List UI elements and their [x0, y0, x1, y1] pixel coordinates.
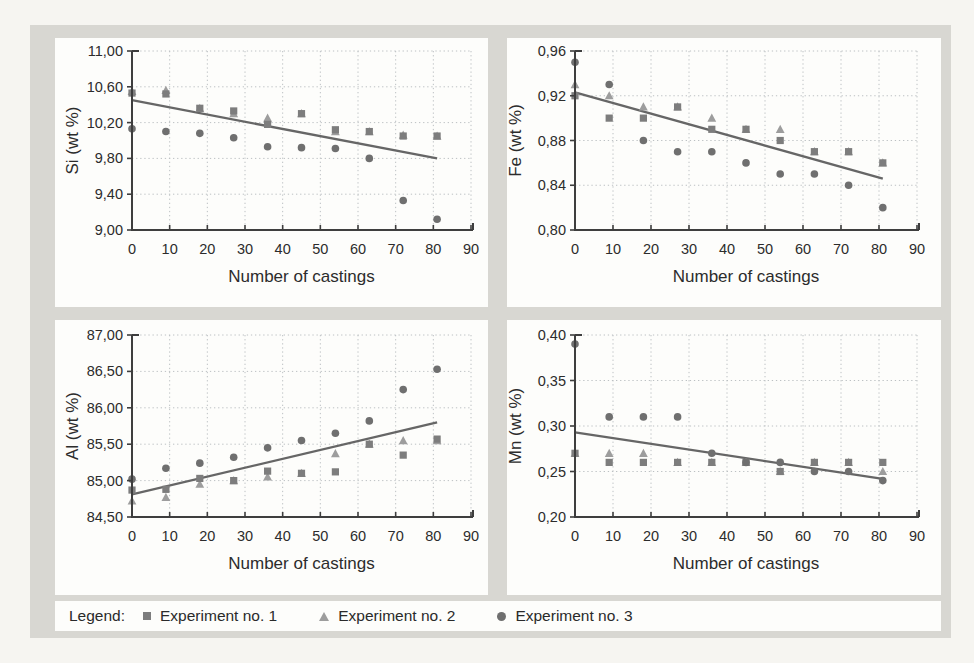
- x-axis-title: Number of castings: [673, 554, 819, 573]
- svg-text:10: 10: [605, 241, 621, 257]
- legend-item-experiment-2: Experiment no. 2: [319, 607, 455, 625]
- series-circles: [128, 125, 441, 223]
- chart-panel-si: 9,009,409,8010,2010,6011,000102030405060…: [55, 38, 488, 307]
- fe-chart: 0,800,840,880,920,960102030405060708090N…: [507, 38, 941, 307]
- svg-text:0,84: 0,84: [538, 177, 566, 193]
- svg-text:80: 80: [871, 241, 887, 257]
- trend-line: [132, 422, 437, 494]
- legend-item-label: Experiment no. 3: [515, 607, 632, 625]
- svg-text:60: 60: [350, 528, 366, 544]
- axes: [127, 51, 473, 230]
- series-triangles: [128, 436, 442, 505]
- svg-text:80: 80: [425, 241, 441, 257]
- svg-text:0,35: 0,35: [538, 373, 566, 389]
- svg-text:9,80: 9,80: [95, 150, 123, 166]
- scanned-figure-page: { "legend": { "title": "Legend:", "items…: [0, 0, 974, 663]
- y-axis-title: Mn (wt %): [507, 388, 525, 465]
- y-axis-title: Si (wt %): [63, 107, 82, 175]
- svg-text:0,92: 0,92: [538, 88, 566, 104]
- svg-text:11,00: 11,00: [88, 43, 123, 59]
- svg-text:80: 80: [871, 528, 887, 544]
- svg-text:40: 40: [275, 528, 291, 544]
- square-marker-icon: [143, 612, 151, 620]
- svg-text:0: 0: [571, 528, 579, 544]
- svg-text:10,60: 10,60: [87, 79, 123, 95]
- mn-chart: 0,200,250,300,350,400102030405060708090N…: [507, 320, 941, 595]
- svg-text:60: 60: [795, 241, 811, 257]
- legend-title: Legend:: [69, 607, 125, 625]
- svg-text:20: 20: [199, 528, 215, 544]
- svg-text:0,80: 0,80: [538, 222, 566, 238]
- svg-text:20: 20: [643, 528, 659, 544]
- series-squares: [571, 92, 886, 166]
- si-chart: 9,009,409,8010,2010,6011,000102030405060…: [55, 38, 488, 307]
- circle-marker-icon: [497, 612, 506, 621]
- chart-panel-fe: 0,800,840,880,920,960102030405060708090N…: [507, 38, 941, 307]
- svg-text:20: 20: [643, 241, 659, 257]
- y-axis-title: Al (wt %): [63, 392, 82, 460]
- series-circles: [128, 365, 441, 483]
- svg-text:0,20: 0,20: [538, 509, 566, 525]
- x-axis-title: Number of castings: [228, 267, 374, 286]
- svg-text:0,25: 0,25: [538, 464, 566, 480]
- svg-text:10: 10: [162, 528, 178, 544]
- figure-container: 9,009,409,8010,2010,6011,000102030405060…: [30, 25, 951, 638]
- svg-text:0,96: 0,96: [538, 43, 566, 59]
- svg-text:40: 40: [719, 528, 735, 544]
- svg-text:86,00: 86,00: [87, 400, 123, 416]
- svg-text:70: 70: [388, 528, 404, 544]
- svg-text:85,00: 85,00: [87, 473, 123, 489]
- svg-text:0,88: 0,88: [538, 133, 566, 149]
- axis-labels: 9,009,409,8010,2010,6011,000102030405060…: [63, 43, 479, 286]
- svg-text:10,20: 10,20: [87, 115, 123, 131]
- svg-text:40: 40: [275, 241, 291, 257]
- svg-text:0: 0: [128, 241, 136, 257]
- svg-text:0,30: 0,30: [538, 418, 566, 434]
- legend-item-experiment-3: Experiment no. 3: [497, 607, 632, 625]
- series-triangles: [571, 80, 888, 167]
- svg-text:0: 0: [128, 528, 136, 544]
- svg-text:84,50: 84,50: [87, 509, 123, 525]
- svg-text:60: 60: [795, 528, 811, 544]
- legend-item-label: Experiment no. 1: [160, 607, 277, 625]
- figure-legend: Legend: Experiment no. 1 Experiment no. …: [55, 601, 941, 631]
- trend-line: [575, 92, 883, 178]
- svg-text:50: 50: [312, 241, 328, 257]
- x-axis-title: Number of castings: [673, 267, 819, 286]
- svg-text:40: 40: [719, 241, 735, 257]
- triangle-marker-icon: [319, 612, 329, 621]
- svg-text:85,50: 85,50: [87, 436, 123, 452]
- legend-item-label: Experiment no. 2: [338, 607, 455, 625]
- svg-text:90: 90: [463, 528, 479, 544]
- chart-panel-al: 84,5085,0085,5086,0086,5087,000102030405…: [55, 320, 488, 595]
- trend-line: [132, 100, 437, 158]
- series-squares: [128, 89, 440, 139]
- svg-text:30: 30: [237, 241, 253, 257]
- svg-text:50: 50: [757, 528, 773, 544]
- svg-text:50: 50: [757, 241, 773, 257]
- svg-text:0,40: 0,40: [538, 327, 566, 343]
- svg-text:0: 0: [571, 241, 579, 257]
- svg-text:70: 70: [833, 528, 849, 544]
- svg-text:20: 20: [199, 241, 215, 257]
- svg-text:90: 90: [909, 528, 925, 544]
- al-chart: 84,5085,0085,5086,0086,5087,000102030405…: [55, 320, 488, 595]
- svg-text:50: 50: [312, 528, 328, 544]
- svg-text:86,50: 86,50: [87, 363, 123, 379]
- series-triangles: [128, 86, 442, 140]
- axis-labels: 0,200,250,300,350,400102030405060708090N…: [507, 327, 925, 573]
- svg-text:70: 70: [833, 241, 849, 257]
- svg-text:70: 70: [388, 241, 404, 257]
- svg-text:87,00: 87,00: [87, 327, 123, 343]
- gridlines: [132, 51, 471, 230]
- chart-panel-mn: 0,200,250,300,350,400102030405060708090N…: [507, 320, 941, 595]
- series-circles: [571, 340, 886, 484]
- y-axis-title: Fe (wt %): [507, 104, 525, 177]
- axis-labels: 0,800,840,880,920,960102030405060708090N…: [507, 43, 925, 286]
- svg-text:90: 90: [463, 241, 479, 257]
- svg-text:10: 10: [605, 528, 621, 544]
- svg-text:9,00: 9,00: [95, 222, 123, 238]
- legend-item-experiment-1: Experiment no. 1: [143, 607, 277, 625]
- x-axis-title: Number of castings: [228, 554, 374, 573]
- svg-text:30: 30: [237, 528, 253, 544]
